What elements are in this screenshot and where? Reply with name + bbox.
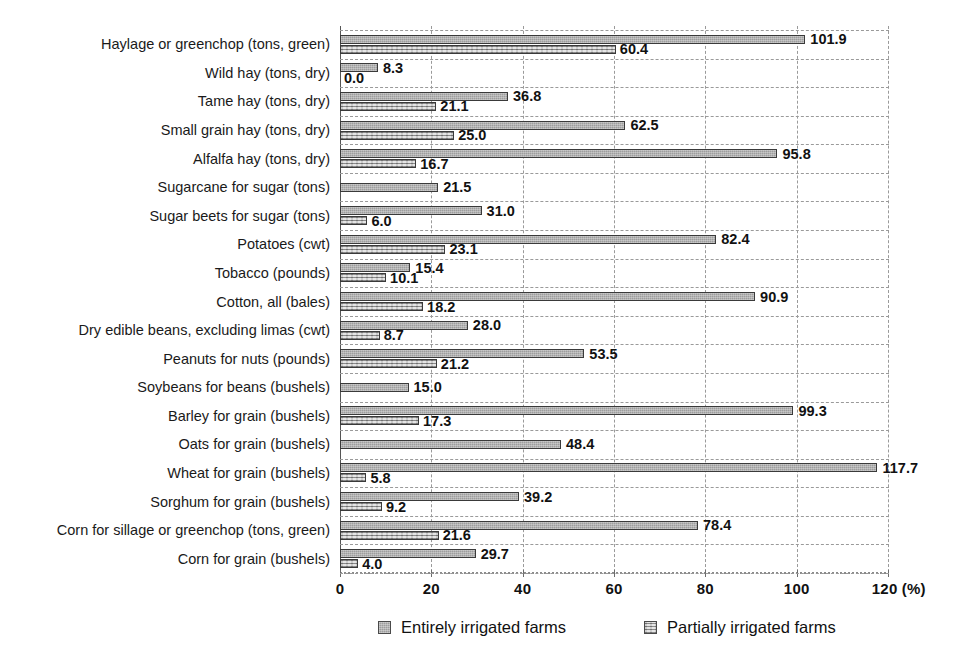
category-label: Haylage or greenchop (tons, green) (0, 37, 330, 52)
category-label: Cotton, all (bales) (0, 295, 330, 310)
category-label: Sugar beets for sugar (tons) (0, 209, 330, 224)
bar-entirely-irrigated (340, 383, 409, 392)
value-label-entirely: 117.7 (882, 461, 918, 476)
bar-partially-irrigated (340, 216, 367, 225)
value-label-partially: 8.7 (384, 328, 404, 343)
bar-entirely-irrigated (340, 92, 508, 101)
category-label: Alfalfa hay (tons, dry) (0, 152, 330, 167)
value-label-partially: 4.0 (362, 557, 382, 572)
value-label-entirely: 15.0 (414, 380, 442, 395)
value-label-partially: 21.2 (441, 357, 469, 372)
value-label-partially: 9.2 (386, 500, 406, 515)
value-label-partially: 23.1 (449, 242, 477, 257)
category-label: Small grain hay (tons, dry) (0, 123, 330, 138)
value-label-partially: 10.1 (390, 271, 418, 286)
value-label-partially: 18.2 (427, 300, 455, 315)
category-label: Barley for grain (bushels) (0, 409, 330, 424)
bar-entirely-irrigated (340, 35, 805, 44)
value-label-entirely: 31.0 (487, 204, 515, 219)
row-separator (340, 487, 889, 488)
value-label-entirely: 95.8 (782, 147, 810, 162)
bar-entirely-irrigated (340, 521, 698, 530)
category-label: Corn for sillage or greenchop (tons, gre… (0, 523, 330, 538)
legend-swatch-entirely-icon (378, 621, 391, 634)
bar-entirely-irrigated (340, 292, 755, 301)
x-tick-label-40: 40 (514, 580, 531, 597)
gridline-100 (797, 26, 798, 577)
row-separator (340, 316, 889, 317)
value-label-entirely: 15.4 (415, 261, 443, 276)
value-label-partially: 21.6 (443, 528, 471, 543)
bar-entirely-irrigated (340, 463, 877, 472)
bar-entirely-irrigated (340, 492, 519, 501)
bar-partially-irrigated (340, 102, 436, 111)
row-separator (340, 59, 889, 60)
bar-entirely-irrigated (340, 321, 468, 330)
value-label-partially: 17.3 (423, 414, 451, 429)
x-tick-label-120: 120 (%) (872, 580, 926, 597)
category-label: Tame hay (tons, dry) (0, 94, 330, 109)
value-label-entirely: 36.8 (513, 89, 541, 104)
x-tick-label-20: 20 (423, 580, 440, 597)
legend-item-entirely: Entirely irrigated farms (378, 618, 566, 637)
bar-entirely-irrigated (340, 406, 793, 415)
row-separator (340, 30, 889, 31)
legend-item-partially: Partially irrigated farms (644, 618, 836, 637)
x-tick-label-80: 80 (697, 580, 714, 597)
value-label-entirely: 90.9 (760, 290, 788, 305)
row-separator (340, 287, 889, 288)
row-separator (340, 573, 889, 574)
bar-partially-irrigated (340, 159, 416, 168)
chart-legend: Entirely irrigated farms Partially irrig… (0, 616, 963, 644)
x-tick-label-60: 60 (605, 580, 622, 597)
value-label-entirely: 62.5 (630, 118, 658, 133)
value-label-entirely: 101.9 (810, 32, 846, 47)
category-label: Potatoes (cwt) (0, 237, 330, 252)
bar-partially-irrigated (340, 502, 382, 511)
value-label-partially: 60.4 (620, 42, 648, 57)
chart-root: 020406080100120 (%) Haylage or greenchop… (0, 0, 963, 661)
value-label-entirely: 29.7 (481, 547, 509, 562)
value-label-partially: 16.7 (420, 157, 448, 172)
row-separator (340, 373, 889, 374)
category-label: Dry edible beans, excluding limas (cwt) (0, 323, 330, 338)
value-label-entirely: 39.2 (524, 490, 552, 505)
bar-partially-irrigated (340, 531, 439, 540)
value-label-entirely: 8.3 (383, 61, 403, 76)
bar-partially-irrigated (340, 245, 445, 254)
bar-partially-irrigated (340, 359, 437, 368)
x-tick-label-100: 100 (784, 580, 810, 597)
gridline-120 (888, 26, 889, 577)
value-label-entirely: 82.4 (721, 232, 749, 247)
category-label: Wheat for grain (bushels) (0, 466, 330, 481)
bar-partially-irrigated (340, 131, 454, 140)
row-separator (340, 430, 889, 431)
value-label-partially: 21.1 (440, 99, 468, 114)
row-separator (340, 459, 889, 460)
category-label: Corn for grain (bushels) (0, 552, 330, 567)
category-label: Sorghum for grain (bushels) (0, 495, 330, 510)
bar-entirely-irrigated (340, 206, 482, 215)
legend-label-partially: Partially irrigated farms (667, 618, 836, 637)
bar-partially-irrigated (340, 331, 380, 340)
category-label: Tobacco (pounds) (0, 266, 330, 281)
row-separator (340, 201, 889, 202)
row-separator (340, 544, 889, 545)
bar-entirely-irrigated (340, 549, 476, 558)
bar-entirely-irrigated (340, 235, 716, 244)
value-label-partially: 25.0 (458, 128, 486, 143)
bar-partially-irrigated (340, 559, 358, 568)
bar-entirely-irrigated (340, 183, 438, 192)
gridline-60 (614, 26, 615, 577)
row-separator (340, 116, 889, 117)
row-separator (340, 173, 889, 174)
x-tick-label-0: 0 (336, 580, 345, 597)
bar-partially-irrigated (340, 473, 366, 482)
bar-partially-irrigated (340, 45, 616, 54)
category-label: Oats for grain (bushels) (0, 437, 330, 452)
bar-entirely-irrigated (340, 440, 561, 449)
value-label-partially: 0.0 (344, 71, 364, 86)
bar-partially-irrigated (340, 273, 386, 282)
category-label: Sugarcane for sugar (tons) (0, 180, 330, 195)
category-label: Soybeans for beans (bushels) (0, 380, 330, 395)
